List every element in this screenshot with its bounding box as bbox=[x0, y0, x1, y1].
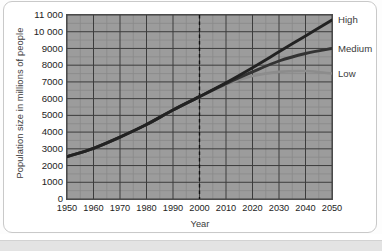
legend-label-low: Low bbox=[338, 68, 356, 79]
chart-screenshot: Population size in millions of people 01… bbox=[0, 0, 382, 251]
footer-strip bbox=[0, 240, 382, 251]
x-axis-title: Year bbox=[66, 219, 334, 229]
x-tick-label: 2050 bbox=[312, 203, 352, 213]
legend-label-high: High bbox=[338, 14, 358, 25]
legend-label-medium: Medium bbox=[338, 43, 372, 54]
x-axis-tick-labels: 1950196019701980199020002010202020302040… bbox=[0, 0, 382, 251]
